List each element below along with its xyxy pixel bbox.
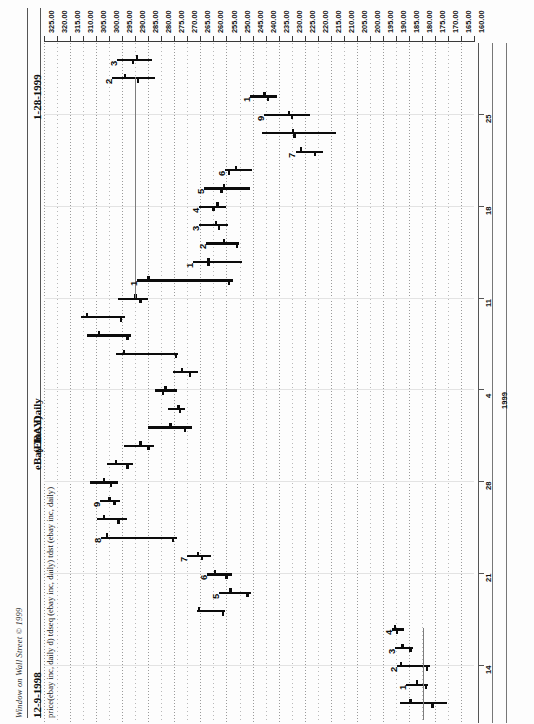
price-tick-label: 205.00 (360, 10, 369, 33)
price-gridline (279, 43, 280, 723)
price-gridline (448, 43, 449, 723)
price-tick (357, 36, 358, 42)
plot-area[interactable] (44, 43, 474, 723)
price-axis (44, 36, 474, 43)
td-sequential-number: 3 (108, 60, 119, 65)
ohlc-close-tick (431, 703, 433, 708)
price-tick-label: 270.00 (190, 10, 199, 33)
time-axis-line-3 (506, 43, 507, 723)
end-date-label: 1-28-1999 (31, 74, 43, 120)
price-gridline (435, 43, 436, 723)
ohlc-open-tick (409, 699, 411, 704)
ohlc-bar (204, 187, 250, 189)
price-tick-label: 300.00 (112, 10, 121, 33)
ohlc-open-tick (229, 588, 231, 593)
ohlc-open-tick (216, 202, 218, 207)
ohlc-close-tick (179, 408, 181, 413)
price-tick-label: 245.00 (256, 10, 265, 33)
ohlc-open-tick (401, 644, 403, 649)
ohlc-open-tick (106, 533, 108, 538)
ohlc-bar (264, 114, 310, 116)
ohlc-bar (262, 132, 336, 134)
ohlc-close-tick (396, 629, 398, 634)
ohlc-close-tick (220, 188, 222, 193)
price-tick (213, 36, 214, 42)
ohlc-close-tick (291, 114, 293, 119)
price-gridline (422, 43, 423, 723)
price-tick (422, 36, 423, 42)
price-tick-label: 310.00 (86, 10, 95, 33)
tdst-support-line (423, 628, 424, 720)
date-tick-label: 18 (484, 206, 493, 214)
price-gridline (292, 43, 293, 723)
price-gridline (266, 43, 267, 723)
ohlc-close-tick (132, 59, 134, 64)
price-gridline (109, 43, 110, 723)
price-gridline (161, 43, 162, 723)
time-gridline (44, 206, 474, 207)
price-tick-label: 325.00 (47, 10, 56, 33)
price-tick (318, 36, 319, 42)
ohlc-open-tick (300, 147, 302, 152)
td-sequential-number: 6 (198, 575, 209, 580)
td-sequential-number: 6 (216, 171, 227, 176)
price-tick-label: 260.00 (216, 10, 225, 33)
time-axis: 1999 (476, 43, 534, 723)
price-tick-label: 305.00 (99, 10, 108, 33)
price-tick-label: 240.00 (269, 10, 278, 33)
ohlc-open-tick (147, 276, 149, 281)
ohlc-open-tick (235, 166, 237, 171)
td-sequential-number: 2 (103, 79, 114, 84)
ohlc-bar (199, 224, 228, 226)
price-gridline (383, 43, 384, 723)
ohlc-open-tick (181, 368, 183, 373)
price-gridline (370, 43, 371, 723)
td-sequential-number: 9 (255, 115, 266, 120)
ohlc-close-tick (110, 482, 112, 487)
price-tick (148, 36, 149, 42)
ohlc-close-tick (189, 372, 191, 377)
ohlc-open-tick (98, 331, 100, 336)
td-sequential-number: 5 (210, 593, 221, 598)
price-gridline (57, 43, 58, 723)
ohlc-open-tick (263, 92, 265, 97)
price-tick-label: 285.00 (151, 10, 160, 33)
price-gridline (187, 43, 188, 723)
ohlc-close-tick (207, 261, 209, 266)
td-sequential-number: 2 (197, 244, 208, 249)
ohlc-close-tick (246, 592, 248, 597)
ohlc-close-tick (218, 225, 220, 230)
header-divider-outer (27, 8, 28, 718)
price-tick-label: 295.00 (125, 10, 134, 33)
time-axis-line-1 (478, 43, 479, 723)
ohlc-open-tick (124, 74, 126, 79)
td-sequential-number: 8 (92, 538, 103, 543)
ohlc-open-tick (223, 239, 225, 244)
ohlc-open-tick (198, 607, 200, 612)
price-tick-label: 235.00 (282, 10, 291, 33)
date-tick-label: 4 (484, 394, 493, 398)
ohlc-bar (101, 537, 177, 539)
ohlc-open-tick (139, 441, 141, 446)
price-gridline (83, 43, 84, 723)
ohlc-bar (87, 334, 131, 336)
price-tick (187, 36, 188, 42)
ohlc-open-tick (123, 350, 125, 355)
price-tick-label: 315.00 (73, 10, 82, 33)
price-gridline (357, 43, 358, 723)
price-tick-label: 185.00 (412, 10, 421, 33)
td-sequential-number: 1 (397, 685, 408, 690)
ohlc-close-tick (267, 96, 269, 101)
price-tick-label: 220.00 (321, 10, 330, 33)
price-gridline (213, 43, 214, 723)
price-gridline (409, 43, 410, 723)
price-tick-label: 215.00 (334, 10, 343, 33)
price-tick-label: 160.00 (477, 10, 486, 33)
price-tick (305, 36, 306, 42)
price-gridline (174, 43, 175, 723)
price-tick (292, 36, 293, 42)
td-sequential-number: 1 (184, 262, 195, 267)
date-tick-label: 14 (484, 666, 493, 674)
ohlc-close-tick (228, 170, 230, 175)
price-tick (200, 36, 201, 42)
